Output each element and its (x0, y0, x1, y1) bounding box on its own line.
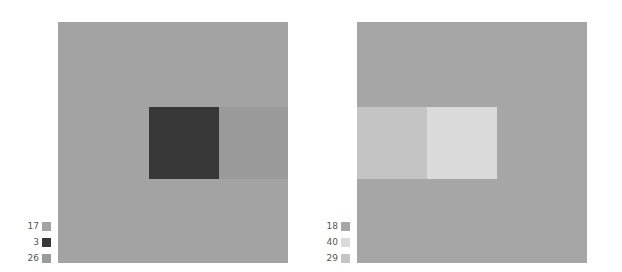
legend-swatch (42, 222, 51, 231)
legend-label: 17 (28, 222, 39, 231)
legend-swatch (341, 222, 350, 231)
legend-row: 26 (21, 250, 51, 266)
legend-row: 17 (21, 218, 51, 234)
legend-swatch (42, 254, 51, 263)
legend-label: 18 (327, 222, 338, 231)
right-legend: 18 40 29 (320, 218, 350, 266)
legend-row: 3 (21, 234, 51, 250)
legend-row: 40 (320, 234, 350, 250)
legend-swatch (42, 238, 51, 247)
legend-swatch (341, 254, 350, 263)
legend-label: 3 (33, 238, 39, 247)
legend-label: 40 (327, 238, 338, 247)
right-panel (357, 22, 587, 263)
legend-label: 29 (327, 254, 338, 263)
legend-row: 29 (320, 250, 350, 266)
legend-row: 18 (320, 218, 350, 234)
illusion-diagram: 17 3 26 18 40 29 (0, 0, 622, 272)
left-panel (58, 22, 288, 263)
legend-label: 26 (28, 254, 39, 263)
right-band (357, 107, 427, 179)
left-legend: 17 3 26 (21, 218, 51, 266)
left-dark-square (149, 107, 219, 179)
legend-swatch (341, 238, 350, 247)
right-light-square (427, 107, 497, 179)
left-band (218, 107, 288, 179)
